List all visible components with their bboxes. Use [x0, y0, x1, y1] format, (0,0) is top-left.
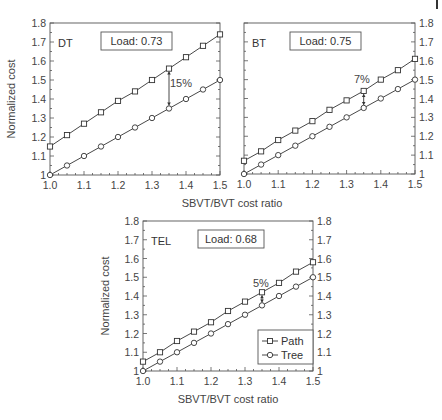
- square-marker-icon: [115, 98, 120, 103]
- circle-marker-icon: [140, 368, 145, 373]
- circle-marker-icon: [183, 96, 188, 101]
- circle-marker-icon: [293, 284, 298, 289]
- y-tick-label-right: 1.6: [317, 253, 332, 265]
- circle-marker-icon: [241, 171, 246, 176]
- x-tick-label: 1.4: [272, 375, 287, 387]
- y-tick-label-right: 1.7: [419, 36, 434, 48]
- circle-marker-icon: [208, 331, 213, 336]
- square-marker-icon: [149, 77, 154, 82]
- x-tick-label: 1.2: [111, 179, 126, 191]
- square-marker-icon: [217, 32, 222, 37]
- square-marker-icon: [81, 121, 86, 126]
- square-marker-icon: [327, 107, 332, 112]
- y-tick-label: 1.3: [31, 112, 46, 124]
- x-tick-label: 1.1: [77, 179, 92, 191]
- y-tick-label: 1.7: [124, 234, 139, 246]
- bt-annotation: 7%: [354, 73, 370, 85]
- circle-marker-icon: [412, 77, 417, 82]
- dt-x-axis-title: SBVT/BVT cost ratio: [182, 197, 283, 209]
- y-tick-label: 1.6: [31, 55, 46, 67]
- y-tick-label-right: 1.1: [317, 346, 332, 358]
- circle-marker-icon: [242, 312, 247, 317]
- square-marker-icon: [242, 299, 247, 304]
- circle-marker-icon: [327, 124, 332, 129]
- x-tick-label: 1.3: [145, 179, 160, 191]
- square-marker-icon: [183, 55, 188, 60]
- circle-marker-icon: [47, 172, 52, 177]
- circle-marker-icon: [174, 350, 179, 355]
- arrow-down-icon: [260, 299, 264, 302]
- x-tick-label: 1.0: [136, 375, 151, 387]
- tel-annotation: 5%: [253, 277, 269, 289]
- circle-marker-icon: [132, 125, 137, 130]
- square-marker-icon: [132, 89, 137, 94]
- y-tick-label: 1.4: [31, 93, 46, 105]
- circle-marker-icon: [310, 275, 315, 280]
- y-tick-label-right: 1.2: [419, 130, 434, 142]
- y-tick-label-right: 1.2: [317, 328, 332, 340]
- legend-square-icon: [268, 339, 273, 344]
- y-tick-label: 1.2: [31, 131, 46, 143]
- circle-marker-icon: [81, 153, 86, 158]
- circle-marker-icon: [378, 96, 383, 101]
- y-tick-label-right: 1.8: [419, 17, 434, 29]
- arrow-up-icon: [362, 94, 366, 97]
- arrow-up-icon: [260, 295, 264, 298]
- y-tick-label-right: 1.4: [317, 290, 332, 302]
- x-tick-label: 1.3: [339, 178, 354, 190]
- x-tick-label: 1.2: [204, 375, 219, 387]
- square-marker-icon: [276, 137, 281, 142]
- legend-tree-label: Tree: [281, 349, 303, 361]
- square-marker-icon: [310, 260, 315, 265]
- square-marker-icon: [361, 88, 366, 93]
- square-marker-icon: [293, 269, 298, 274]
- arrow-down-icon: [362, 102, 366, 105]
- y-tick-label-right: 1.5: [419, 74, 434, 86]
- tel-y-axis-title: Normalized cost: [99, 257, 111, 336]
- square-marker-icon: [64, 133, 69, 138]
- circle-marker-icon: [115, 134, 120, 139]
- square-marker-icon: [378, 77, 383, 82]
- x-tick-label: 1.4: [373, 178, 388, 190]
- circle-marker-icon: [258, 162, 263, 167]
- circle-marker-icon: [98, 144, 103, 149]
- legend-path-label: Path: [281, 335, 304, 347]
- dt-load-label: Load: 0.73: [111, 35, 163, 47]
- corner-mark: [436, 0, 438, 9]
- circle-marker-icon: [276, 293, 281, 298]
- y-tick-label: 1.8: [31, 17, 46, 29]
- y-tick-label-right: 1.7: [317, 234, 332, 246]
- square-marker-icon: [191, 329, 196, 334]
- y-tick-label-right: 1.1: [419, 149, 434, 161]
- x-tick-label: 1.0: [237, 178, 252, 190]
- x-tick-label: 1.1: [170, 375, 185, 387]
- y-tick-label: 1.3: [124, 309, 139, 321]
- square-marker-icon: [140, 359, 145, 364]
- square-marker-icon: [47, 144, 52, 149]
- tel-load-label: Load: 0.68: [205, 233, 257, 245]
- y-tick-label: 1.1: [31, 150, 46, 162]
- square-marker-icon: [293, 128, 298, 133]
- square-marker-icon: [166, 66, 171, 71]
- arrow-down-icon: [167, 103, 171, 106]
- dt-annotation: 15%: [170, 77, 192, 89]
- circle-marker-icon: [395, 86, 400, 91]
- square-marker-icon: [259, 290, 264, 295]
- circle-marker-icon: [361, 105, 366, 110]
- y-tick-label: 1.5: [31, 74, 46, 86]
- circle-marker-icon: [191, 340, 196, 345]
- circle-marker-icon: [217, 77, 222, 82]
- x-tick-label: 1.5: [213, 179, 228, 191]
- x-tick-label: 1.5: [408, 178, 423, 190]
- y-tick-label: 1.5: [124, 271, 139, 283]
- y-tick-label: 1.4: [124, 290, 139, 302]
- square-marker-icon: [157, 350, 162, 355]
- tel-x-axis-title: SBVT/BVT cost ratio: [178, 393, 279, 405]
- dt-panel-label: DT: [58, 37, 73, 49]
- square-marker-icon: [208, 320, 213, 325]
- y-tick-label: 1.6: [124, 253, 139, 265]
- square-marker-icon: [200, 43, 205, 48]
- circle-marker-icon: [259, 303, 264, 308]
- circle-marker-icon: [149, 115, 154, 120]
- x-tick-label: 1.0: [43, 179, 58, 191]
